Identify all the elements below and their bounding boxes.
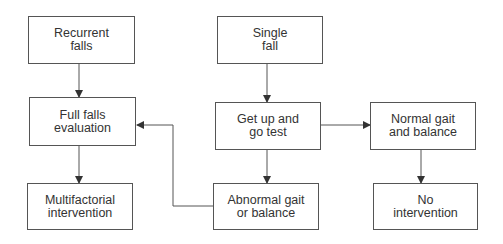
node-label: Normal gait and balance bbox=[389, 113, 457, 139]
node-label: Get up and go test bbox=[237, 113, 299, 139]
node-label: Multifactorial intervention bbox=[45, 194, 115, 220]
node-label: Full falls evaluation bbox=[54, 109, 111, 135]
node-abnormal-gait-or-balance: Abnormal gait or balance bbox=[213, 183, 319, 230]
node-get-up-and-go-test: Get up and go test bbox=[215, 102, 321, 150]
node-label: No intervention bbox=[393, 194, 458, 220]
arrow-abnormal-to-evaluation bbox=[137, 125, 213, 206]
node-multifactorial-intervention: Multifactorial intervention bbox=[27, 183, 133, 230]
node-full-falls-evaluation: Full falls evaluation bbox=[29, 97, 136, 146]
node-recurrent-falls: Recurrent falls bbox=[28, 16, 135, 64]
node-single-fall: Single fall bbox=[217, 16, 323, 64]
node-label: Recurrent falls bbox=[54, 27, 109, 53]
node-label: Abnormal gait or balance bbox=[227, 194, 304, 220]
node-label: Single fall bbox=[253, 27, 288, 53]
node-no-intervention: No intervention bbox=[373, 183, 478, 230]
node-normal-gait-and-balance: Normal gait and balance bbox=[370, 102, 476, 150]
